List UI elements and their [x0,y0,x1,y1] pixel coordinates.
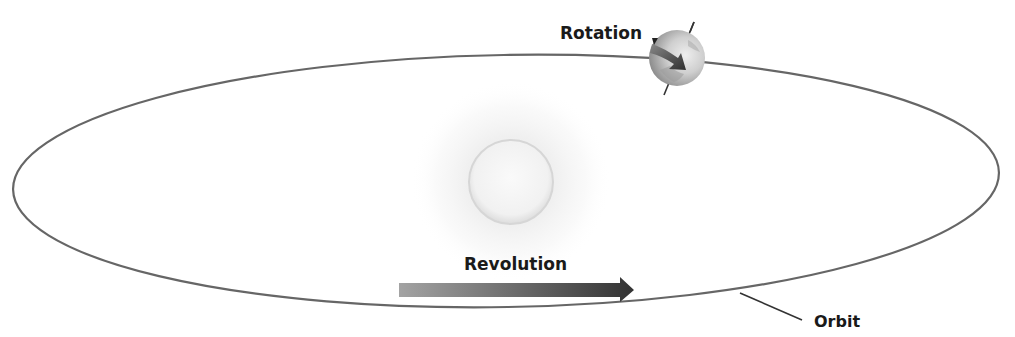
sun [411,81,611,281]
revolution-label: Revolution [464,256,567,273]
earth [649,22,705,95]
diagram-canvas [0,0,1015,337]
orbit-leader-line [740,293,802,320]
rotation-label: Rotation [560,25,642,42]
orbit-diagram: Rotation Revolution Orbit [0,0,1015,337]
orbit-label: Orbit [814,314,860,330]
sun-core [469,140,553,224]
